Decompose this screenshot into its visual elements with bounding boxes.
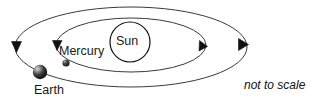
earth-orbit-arrow-left: [12, 42, 22, 53]
earth-label: Earth: [34, 84, 64, 97]
mercury-orbit-arrow-right: [199, 41, 208, 52]
earth-body: [33, 65, 47, 79]
sun-label: Sun: [116, 35, 138, 48]
solar-system-diagram: Sun Mercury Earth not to scale: [0, 0, 328, 104]
mercury-label: Mercury: [59, 45, 104, 58]
mercury-body: [62, 59, 69, 66]
not-to-scale-note: not to scale: [244, 79, 305, 91]
